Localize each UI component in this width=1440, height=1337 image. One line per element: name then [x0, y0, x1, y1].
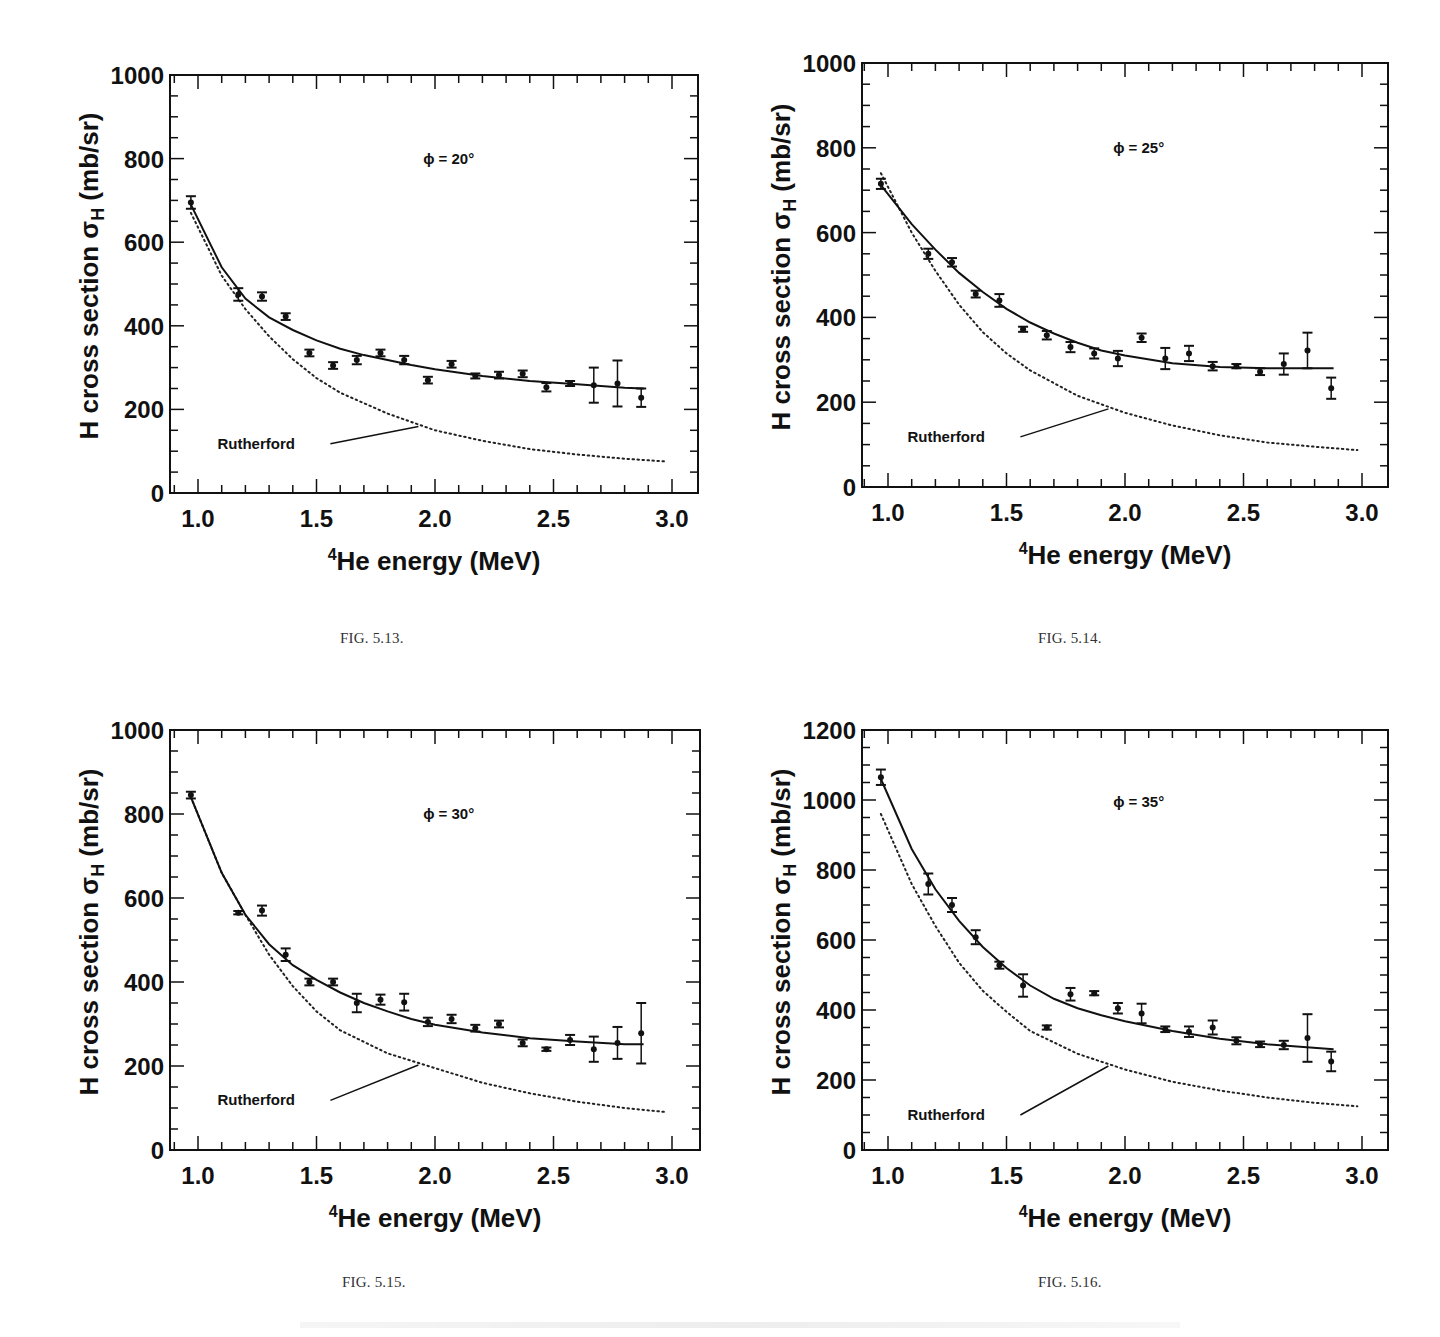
rutherford-leader-line — [330, 1065, 418, 1100]
fit-curve — [191, 797, 644, 1044]
data-point — [1137, 334, 1147, 342]
rutherford-curve — [191, 213, 667, 462]
y-tick-label: 0 — [843, 474, 856, 501]
data-point — [186, 792, 196, 799]
x-axis-title: 4He energy (MeV) — [1019, 1203, 1232, 1233]
x-tick-label: 2.0 — [418, 505, 451, 532]
data-point — [1326, 378, 1336, 399]
data-point — [1018, 326, 1028, 332]
rutherford-leader-line — [330, 426, 418, 443]
data-point — [375, 350, 385, 357]
data-point — [328, 979, 338, 986]
x-tick-label: 1.0 — [871, 499, 904, 526]
x-tick-label: 3.0 — [655, 1162, 688, 1189]
x-axis-title: 4He energy (MeV) — [328, 546, 541, 576]
figure-caption: FIG. 5.15. — [342, 1274, 406, 1291]
figure-caption: FIG. 5.16. — [1038, 1274, 1102, 1291]
faint-bleedthrough-text — [300, 1322, 1180, 1328]
data-point — [589, 1037, 599, 1062]
angle-annotation: ϕ = 25° — [1113, 139, 1164, 156]
data-point — [257, 292, 267, 300]
data-point — [518, 371, 528, 378]
angle-annotation: ϕ = 35° — [1113, 793, 1164, 810]
y-tick-label: 0 — [151, 1137, 164, 1164]
data-point — [1065, 342, 1075, 352]
y-tick-label: 200 — [124, 1053, 164, 1080]
x-tick-label: 1.0 — [871, 1162, 904, 1189]
data-point — [399, 994, 409, 1011]
data-point — [1302, 1014, 1312, 1062]
data-point — [281, 313, 291, 320]
x-tick-label: 1.5 — [990, 499, 1023, 526]
data-point — [1231, 363, 1241, 369]
y-tick-label: 600 — [816, 220, 856, 247]
rutherford-label: Rutherford — [217, 1091, 295, 1108]
data-point — [304, 350, 314, 357]
x-tick-label: 1.5 — [300, 1162, 333, 1189]
data-point — [233, 910, 243, 916]
y-tick-label: 1000 — [803, 787, 856, 814]
data-point — [304, 979, 314, 986]
x-tick-label: 2.5 — [1227, 1162, 1260, 1189]
plot-frame — [170, 730, 700, 1150]
data-point — [518, 1040, 528, 1047]
y-axis-title: H cross section σH (mb/sr) — [766, 769, 800, 1096]
y-tick-label: 400 — [816, 997, 856, 1024]
y-tick-label: 400 — [124, 313, 164, 340]
y-tick-label: 1000 — [111, 717, 164, 744]
figure-5-14: 020040060080010001.01.52.02.53.04He ener… — [720, 0, 1440, 660]
data-point — [612, 360, 622, 406]
data-point — [1184, 1026, 1194, 1037]
x-tick-label: 2.5 — [537, 1162, 570, 1189]
x-tick-label: 2.5 — [1227, 499, 1260, 526]
y-tick-label: 800 — [124, 801, 164, 828]
rutherford-curve — [191, 797, 667, 1112]
data-point — [186, 196, 196, 209]
chart-phi-30: 020040060080010001.01.52.02.53.04He ener… — [0, 660, 720, 1260]
data-point — [423, 377, 433, 384]
x-tick-label: 2.0 — [1108, 499, 1141, 526]
chart-phi-35: 0200400600800100012001.01.52.02.53.04He … — [720, 660, 1440, 1260]
data-point — [1326, 1052, 1336, 1072]
data-point — [352, 994, 362, 1012]
data-point — [447, 361, 457, 368]
y-axis-title: H cross section σH (mb/sr) — [74, 769, 108, 1096]
y-tick-label: 0 — [843, 1137, 856, 1164]
data-point — [636, 389, 646, 407]
data-point — [541, 383, 551, 391]
plot-frame — [862, 63, 1388, 487]
y-tick-label: 800 — [816, 857, 856, 884]
chart-phi-25: 020040060080010001.01.52.02.53.04He ener… — [720, 0, 1440, 600]
x-tick-label: 2.5 — [537, 505, 570, 532]
figure-caption: FIG. 5.13. — [340, 630, 404, 647]
figure-5-13: 020040060080010001.01.52.02.53.04He ener… — [0, 0, 720, 660]
data-point — [257, 906, 267, 916]
x-axis-title: 4He energy (MeV) — [1019, 540, 1232, 570]
chart-phi-20: 020040060080010001.01.52.02.53.04He ener… — [0, 0, 720, 600]
fit-curve — [191, 205, 644, 389]
x-tick-label: 2.0 — [418, 1162, 451, 1189]
x-axis-title: 4He energy (MeV) — [329, 1203, 542, 1233]
y-tick-label: 1200 — [803, 717, 856, 744]
x-tick-label: 3.0 — [1345, 499, 1378, 526]
data-point — [876, 179, 886, 189]
angle-annotation: ϕ = 20° — [423, 150, 474, 167]
data-point — [636, 1003, 646, 1063]
data-point — [1302, 333, 1312, 369]
data-point — [1089, 990, 1099, 996]
y-axis-title: H cross section σH (mb/sr) — [74, 113, 108, 440]
data-point — [1065, 988, 1075, 1001]
y-tick-label: 400 — [124, 969, 164, 996]
x-tick-label: 1.5 — [990, 1162, 1023, 1189]
data-point — [876, 770, 886, 785]
data-point — [1160, 348, 1170, 369]
fit-curve — [881, 779, 1334, 1049]
x-tick-label: 1.0 — [181, 505, 214, 532]
data-point — [1113, 1003, 1123, 1014]
data-point — [328, 362, 338, 369]
y-tick-label: 800 — [124, 146, 164, 173]
x-tick-label: 3.0 — [655, 505, 688, 532]
x-tick-label: 1.0 — [181, 1162, 214, 1189]
figure-5-16: 0200400600800100012001.01.52.02.53.04He … — [720, 660, 1440, 1337]
angle-annotation: ϕ = 30° — [423, 805, 474, 822]
